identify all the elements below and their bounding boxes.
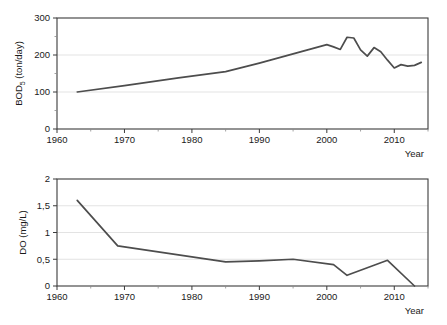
y-axis-tick-label: 2 [45, 173, 50, 184]
y-axis-tick-label: 1,5 [37, 200, 50, 211]
bod5-chart-svg: 0100200300196019701980199020002010YearBO… [0, 0, 447, 165]
x-axis-tick-label: 2010 [384, 134, 405, 145]
y-axis-tick-label: 300 [34, 12, 50, 23]
x-axis-tick-label: 1980 [181, 134, 202, 145]
y-axis-tick-label: 1 [45, 227, 50, 238]
x-axis-tick-label: 2010 [384, 291, 405, 302]
x-axis-tick-label: 1970 [114, 134, 135, 145]
x-axis-tick-label: 1970 [114, 291, 135, 302]
chart-bod5-load: 0100200300196019701980199020002010YearBO… [0, 0, 447, 165]
data-series-line [77, 37, 421, 92]
y-axis-tick-label: 200 [34, 49, 50, 60]
x-axis-tick-label: 1990 [249, 134, 270, 145]
x-axis-tick-label: 1960 [46, 134, 67, 145]
plot-frame [57, 18, 428, 129]
y-axis-tick-label: 0,5 [37, 254, 50, 265]
do-chart-svg: 00,511,52196019701980199020002010YearDO … [0, 165, 447, 325]
chart-do-concentration: 00,511,52196019701980199020002010YearDO … [0, 165, 447, 325]
y-axis-title: DO (mg/L) [17, 210, 28, 254]
y-axis-tick-label: 100 [34, 86, 50, 97]
y-axis-tick-label: 0 [45, 280, 50, 291]
x-axis-title: Year [405, 148, 424, 159]
x-axis-title: Year [405, 305, 424, 316]
data-series-line [77, 200, 414, 286]
x-axis-tick-label: 1980 [181, 291, 202, 302]
x-axis-tick-label: 2000 [316, 291, 337, 302]
x-axis-tick-label: 1960 [46, 291, 67, 302]
x-axis-tick-label: 2000 [316, 134, 337, 145]
y-axis-tick-label: 0 [45, 123, 50, 134]
figure-two-panel-line-charts: 0100200300196019701980199020002010YearBO… [0, 0, 447, 325]
y-axis-title: BOD5 (ton/day) [13, 41, 26, 106]
x-axis-tick-label: 1990 [249, 291, 270, 302]
